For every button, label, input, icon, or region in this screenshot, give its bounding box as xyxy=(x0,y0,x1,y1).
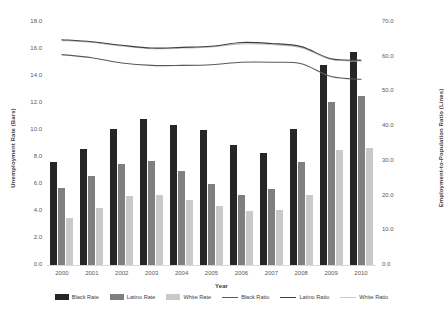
y-tick-label-left: 18.0 xyxy=(16,18,42,24)
chart-legend: Black RateLatino RateWhite RateBlack Rat… xyxy=(0,294,443,300)
x-tick-label: 2000 xyxy=(46,270,78,276)
y-tick-label-right: 70.0 xyxy=(382,18,408,24)
y-tick-label-right: 60.0 xyxy=(382,53,408,59)
y-tick-label-right: 30.0 xyxy=(382,157,408,163)
legend-item-label: Black Rate xyxy=(72,294,99,300)
line-black-ratio xyxy=(62,55,361,80)
legend-item-label: White Rate xyxy=(183,294,211,300)
legend-item-white-rate[interactable]: White Rate xyxy=(166,294,211,300)
legend-item-latino-rate[interactable]: Latino Rate xyxy=(110,294,156,300)
y-tick-label-left: 14.0 xyxy=(16,72,42,78)
y-tick-label-left: 8.0 xyxy=(16,153,42,159)
legend-swatch-bar-icon xyxy=(110,294,124,300)
lines-layer xyxy=(47,22,376,265)
line-latino-ratio xyxy=(62,40,361,61)
x-tick-label: 2004 xyxy=(166,270,198,276)
legend-item-label: Latino Ratio xyxy=(299,294,329,300)
y-tick-label-right: 0.0 xyxy=(382,261,408,267)
x-tick-label: 2006 xyxy=(225,270,257,276)
x-axis-baseline xyxy=(47,265,376,266)
legend-swatch-line-icon xyxy=(222,297,238,298)
x-tick-label: 2009 xyxy=(315,270,347,276)
legend-swatch-bar-icon xyxy=(166,294,180,300)
y-tick-label-left: 6.0 xyxy=(16,180,42,186)
y-tick-label-right: 50.0 xyxy=(382,87,408,93)
y-axis-title-left: Unemployment Rate (Bars) xyxy=(10,88,16,208)
x-tick-label: 2003 xyxy=(136,270,168,276)
x-tick-label: 2010 xyxy=(345,270,377,276)
legend-item-black-rate[interactable]: Black Rate xyxy=(55,294,99,300)
x-tick-label: 2008 xyxy=(285,270,317,276)
y-axis-title-right: Employment-to-Population Ratio (Lines) xyxy=(438,68,444,228)
legend-item-white-ratio[interactable]: White Ratio xyxy=(340,294,388,300)
y-tick-label-left: 2.0 xyxy=(16,234,42,240)
legend-item-label: Latino Rate xyxy=(127,294,156,300)
y-tick-label-right: 10.0 xyxy=(382,226,408,232)
y-tick-label-left: 16.0 xyxy=(16,45,42,51)
y-tick-label-left: 0.0 xyxy=(16,261,42,267)
x-tick-label: 2002 xyxy=(106,270,138,276)
legend-swatch-line-icon xyxy=(280,297,296,298)
legend-item-black-ratio[interactable]: Black Ratio xyxy=(222,294,269,300)
y-tick-label-left: 12.0 xyxy=(16,99,42,105)
legend-item-label: White Ratio xyxy=(359,294,388,300)
y-tick-label-right: 20.0 xyxy=(382,192,408,198)
y-tick-label-right: 40.0 xyxy=(382,122,408,128)
y-tick-label-left: 10.0 xyxy=(16,126,42,132)
legend-swatch-bar-icon xyxy=(55,294,69,300)
legend-item-latino-ratio[interactable]: Latino Ratio xyxy=(280,294,329,300)
x-tick-label: 2007 xyxy=(255,270,287,276)
y-tick-label-left: 4.0 xyxy=(16,207,42,213)
x-tick-label: 2001 xyxy=(76,270,108,276)
plot-area xyxy=(47,22,376,265)
legend-item-label: Black Ratio xyxy=(241,294,269,300)
x-tick-label: 2005 xyxy=(196,270,228,276)
x-axis-title: Year xyxy=(0,283,443,289)
legend-swatch-line-icon xyxy=(340,297,356,298)
